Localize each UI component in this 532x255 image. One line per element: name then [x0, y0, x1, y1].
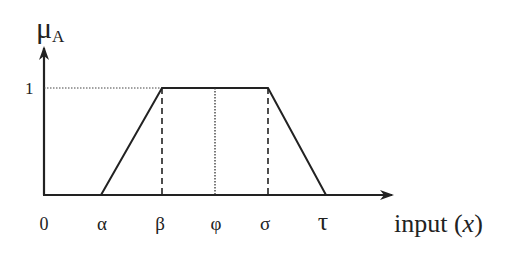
- x-tick-phi: φ: [211, 213, 222, 234]
- x-tick-alpha: α: [97, 213, 107, 234]
- trapezoid-membership-curve: [101, 88, 326, 195]
- y-axis-label: μA: [36, 11, 65, 46]
- x-tick-beta: β: [155, 213, 165, 234]
- x-tick-tau: τ: [318, 207, 328, 236]
- y-level-one-label: 1: [25, 79, 34, 98]
- x-axis-label: input (x): [394, 209, 483, 238]
- membership-function-diagram: μA 1 0 α β φ σ τ input (x): [0, 0, 532, 255]
- x-tick-zero: 0: [40, 214, 49, 234]
- x-tick-sigma: σ: [260, 213, 270, 234]
